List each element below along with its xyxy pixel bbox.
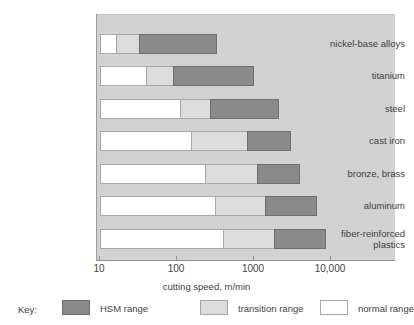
bar-segment-transition <box>116 34 139 54</box>
category-label: cast iron <box>317 135 405 146</box>
x-axis-tick-label: 1000 <box>242 263 264 274</box>
bar-segment-hsm <box>247 131 291 151</box>
x-axis-tick-label: 100 <box>168 263 185 274</box>
x-axis-tick <box>253 256 254 261</box>
bar-segment-normal <box>100 34 116 54</box>
bar-segment-normal <box>100 131 191 151</box>
legend-label: normal range <box>358 303 414 314</box>
x-axis-line <box>96 260 395 261</box>
x-axis-tick <box>99 256 100 261</box>
bar-segment-normal <box>100 66 146 86</box>
x-axis-title: cutting speed, m/min <box>0 281 413 292</box>
bar-segment-transition <box>191 131 247 151</box>
plot-top-border <box>97 14 395 15</box>
bar-segment-hsm <box>210 99 279 119</box>
legend-label: transition range <box>238 303 303 314</box>
category-label: steel <box>317 103 405 114</box>
category-label: aluminum <box>317 200 405 211</box>
bar-segment-transition <box>146 66 173 86</box>
category-label: titanium <box>317 70 405 81</box>
legend-label: HSM range <box>100 303 148 314</box>
bar-segment-normal <box>100 164 205 184</box>
bar-segment-hsm <box>173 66 254 86</box>
category-label: fiber-reinforcedplastics <box>317 228 405 250</box>
x-axis-tick-label: 10 <box>93 263 104 274</box>
legend-swatch-hsm <box>62 300 90 315</box>
bar-segment-transition <box>180 99 210 119</box>
legend-swatch-trans <box>200 300 228 315</box>
category-label: nickel-base alloys <box>317 38 405 49</box>
x-axis-tick <box>330 256 331 261</box>
bar-segment-hsm <box>257 164 300 184</box>
bar-segment-normal <box>100 229 223 249</box>
chart-legend: Key: HSM rangetransition rangenormal ran… <box>0 299 413 321</box>
legend-swatch-norm <box>320 300 348 315</box>
bar-segment-hsm <box>139 34 217 54</box>
x-axis-tick <box>176 256 177 261</box>
x-axis-tick-label: 10,000 <box>315 263 346 274</box>
bar-segment-normal <box>100 99 180 119</box>
legend-title: Key: <box>18 304 37 315</box>
bar-segment-transition <box>223 229 273 249</box>
bar-segment-hsm <box>265 196 316 216</box>
bar-segment-transition <box>205 164 257 184</box>
bar-segment-normal <box>100 196 215 216</box>
category-label: bronze, brass <box>317 168 405 179</box>
bar-segment-transition <box>215 196 265 216</box>
